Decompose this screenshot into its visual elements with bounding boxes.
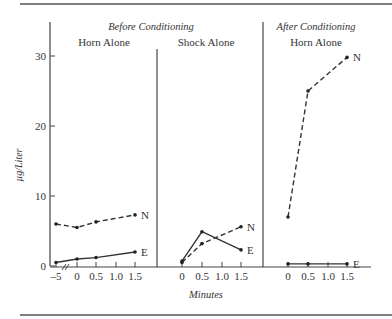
x-tick-label: 1.5 [340,270,354,282]
series-line-E [182,232,241,261]
series-label-N: N [247,221,255,233]
panel-title: Shock Alone [178,36,235,48]
x-tick-label: 0.5 [301,270,315,282]
series-label-E: E [353,258,360,270]
x-tick-label: 0 [179,270,185,282]
x-tick-label: 1.0 [321,270,335,282]
data-point [54,222,58,226]
x-tick-label: 1.5 [128,270,142,282]
data-point [94,256,98,260]
data-point [75,226,79,230]
series-line-N [288,57,347,217]
data-point [54,261,58,265]
series-line-N [182,227,241,263]
data-point [200,242,204,246]
data-point [75,257,79,261]
data-point [94,220,98,224]
data-point [286,215,290,219]
data-point [286,262,290,266]
series-label-E: E [247,244,254,256]
series-label-N: N [141,209,149,221]
data-point [306,89,310,93]
data-point [345,262,349,266]
group-label-before: Before Conditioning [108,21,194,32]
data-point [133,213,137,217]
chart: 0102030µg/LiterBefore ConditioningAfter … [0,0,392,319]
y-tick-label: 10 [35,190,47,202]
data-point [306,262,310,266]
group-label-after: After Conditioning [275,21,355,32]
x-tick-label: –5 [50,270,63,282]
axes [50,22,371,270]
data-point [200,230,204,234]
x-tick-label: 1.0 [109,270,123,282]
x-tick-label: 0 [285,270,291,282]
y-tick-label: 20 [35,120,47,132]
x-tick-label: 0.5 [195,270,209,282]
series-label-E: E [141,246,148,258]
data-point [133,250,137,254]
x-tick-label: 0.5 [89,270,103,282]
series-label-N: N [353,51,361,63]
data-point [239,248,243,252]
panel-title: Horn Alone [78,36,130,48]
y-tick-label: 30 [35,50,47,62]
data-point [180,259,184,263]
y-tick-label: 0 [41,260,47,272]
series [54,56,349,266]
data-point [239,225,243,229]
y-axis-label: µg/Liter [13,148,24,181]
panel-title: Horn Alone [290,36,342,48]
labels: 0102030µg/LiterBefore ConditioningAfter … [13,21,361,300]
x-tick-label: 1.5 [234,270,248,282]
x-axis-label: Minutes [188,289,223,300]
x-tick-label: 1.0 [215,270,229,282]
x-tick-label: 0 [74,270,80,282]
data-point [345,56,349,60]
